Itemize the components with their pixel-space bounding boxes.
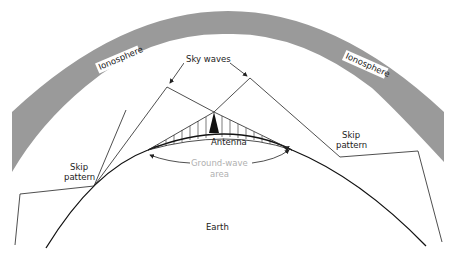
- ground-wave-arrow-left: [150, 155, 190, 163]
- sky-waves-pointer-right: [230, 63, 247, 76]
- skip-pattern-left-label-2: pattern: [64, 172, 95, 182]
- skip-pattern-right-label: Skip: [342, 130, 360, 140]
- earth-label: Earth: [206, 222, 229, 232]
- earth-surface: [46, 134, 426, 248]
- antenna-label: Antenna: [211, 137, 247, 147]
- ground-wave-arrow-right: [252, 150, 289, 163]
- skip-pattern-right-label-2: pattern: [336, 140, 367, 150]
- ground-wave-label-area: area: [210, 169, 229, 179]
- ground-wave-label: Ground-wave: [191, 158, 248, 168]
- antenna-icon: [209, 112, 219, 133]
- sky-waves-pointer-left: [170, 63, 184, 83]
- propagation-diagram: Ionosphere Ionosphere Sky waves Antenna …: [0, 0, 456, 256]
- ionosphere-band: [12, 11, 444, 172]
- sky-waves-label: Sky waves: [186, 54, 231, 64]
- skip-pattern-left-label: Skip: [70, 162, 88, 172]
